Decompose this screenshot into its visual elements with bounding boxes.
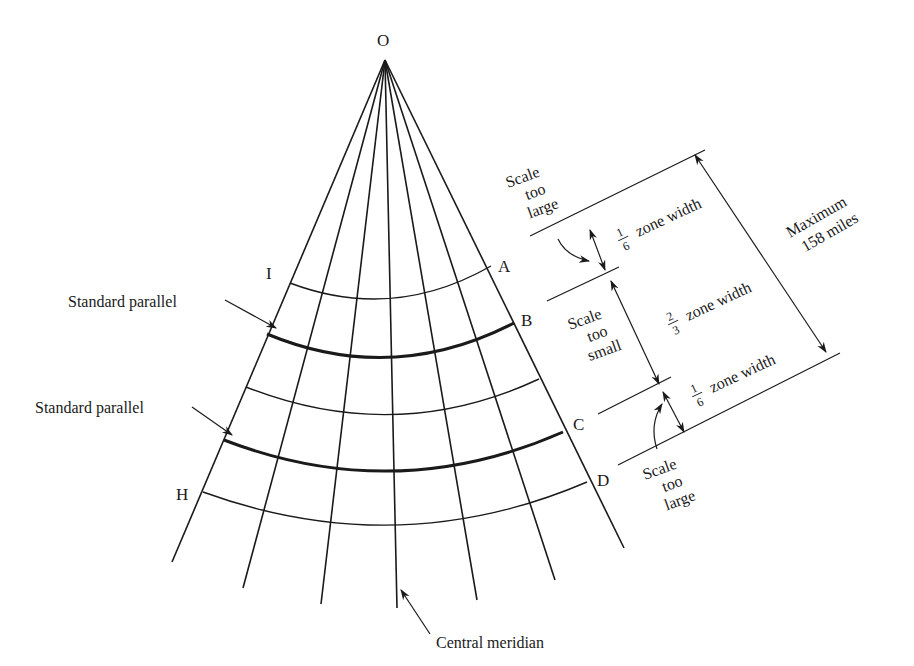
frac-num: 1 — [614, 225, 625, 240]
conic-projection-diagram: O I A B C D H Standard parallel Standard… — [0, 0, 914, 666]
point-label-h: H — [176, 485, 188, 504]
point-label-a: A — [498, 257, 511, 276]
zone-width-text: zone width — [633, 194, 704, 239]
dim-top-sixth — [590, 230, 605, 270]
apex-label-o: O — [377, 31, 389, 50]
dim-middle-two-thirds — [611, 281, 659, 384]
zone-width-text: zone width — [707, 350, 778, 395]
point-label-c: C — [573, 415, 584, 434]
label-zone-width-middle: 2 3 zone width — [662, 274, 756, 339]
frac-num: 1 — [688, 381, 699, 396]
frac-num: 2 — [664, 309, 675, 324]
callout-standard-parallel-top: Standard parallel — [68, 293, 177, 311]
callout-standard-parallel-bottom: Standard parallel — [35, 399, 144, 417]
arrow-standard-parallel-top — [225, 300, 276, 328]
arrow-central-meridian — [401, 590, 430, 634]
zone-width-text: zone width — [683, 278, 754, 323]
pointer-scale-too-large-bottom — [654, 404, 662, 449]
meridian-7 — [385, 60, 624, 548]
frac-den: 3 — [670, 322, 681, 337]
meridian-1 — [172, 60, 385, 562]
point-label-i: I — [266, 264, 272, 283]
meridians — [172, 60, 624, 608]
callout-central-meridian: Central meridian — [436, 634, 544, 651]
note-scale-too-small: Scale too small — [565, 302, 624, 367]
ext-line-a — [530, 150, 705, 236]
label-maximum: Maximum 158 miles — [783, 192, 861, 258]
label-zone-width-bottom: 1 6 zone width — [686, 346, 780, 411]
arrow-standard-parallel-bottom — [192, 407, 232, 435]
dim-bottom-sixth — [663, 392, 684, 432]
frac-den: 6 — [620, 238, 631, 253]
meridian-2 — [243, 60, 385, 588]
frac-den: 6 — [694, 394, 705, 409]
point-label-d: D — [597, 471, 609, 490]
label-zone-width-top: 1 6 zone width — [612, 190, 706, 255]
pointer-scale-too-large-top — [558, 239, 589, 261]
ext-line-b — [547, 267, 619, 301]
note-scale-too-large-bottom: Scale too large — [640, 453, 698, 518]
note-scale-too-large-top: Scale too large — [503, 161, 561, 226]
point-label-b: B — [521, 311, 532, 330]
